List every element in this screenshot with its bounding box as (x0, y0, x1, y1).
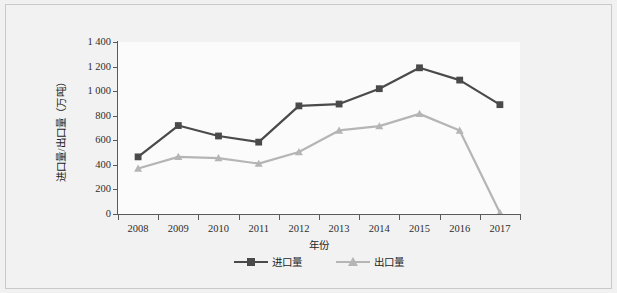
data-point-square (497, 101, 504, 108)
x-axis-tick (319, 215, 320, 220)
square-marker-icon (234, 256, 268, 267)
x-axis-title: 年份 (118, 237, 520, 252)
y-axis-tick-label: 400 (69, 160, 111, 170)
y-axis-tick (113, 42, 118, 43)
data-point-square (255, 139, 262, 146)
legend-item-export[interactable]: 出口量 (336, 254, 404, 269)
y-axis-tick-label: 800 (69, 111, 111, 121)
data-point-square (215, 133, 222, 140)
legend-label-import: 进口量 (272, 254, 302, 269)
x-axis-tick (359, 215, 360, 220)
series-line (138, 68, 500, 157)
x-axis-tick (520, 215, 521, 220)
x-axis-tick (239, 215, 240, 220)
legend-label-export: 出口量 (374, 254, 404, 269)
y-axis-tick (113, 165, 118, 166)
y-axis-tick-label: 1 400 (69, 37, 111, 47)
data-point-square (416, 64, 423, 71)
y-axis-tick-labels: 02004006008001 0001 2001 400 (66, 0, 111, 293)
legend-item-import[interactable]: 进口量 (234, 254, 302, 269)
data-point-square (456, 77, 463, 84)
x-axis-tick (480, 215, 481, 220)
data-point-triangle (496, 209, 504, 214)
data-point-square (296, 102, 303, 109)
series-出口量 (134, 110, 504, 214)
x-axis-tick (118, 215, 119, 220)
data-point-triangle (416, 110, 424, 117)
plot-area (118, 42, 520, 214)
y-axis-tick-label: 1 000 (69, 86, 111, 96)
data-point-square (135, 153, 142, 160)
chart-legend: 进口量 出口量 (118, 254, 520, 269)
x-axis-tick (440, 215, 441, 220)
y-axis-tick (113, 116, 118, 117)
y-axis-tick (113, 140, 118, 141)
x-axis-tick (158, 215, 159, 220)
y-axis-tick-label: 600 (69, 135, 111, 145)
x-axis-tick (198, 215, 199, 220)
x-axis-tick-label: 2017 (472, 223, 528, 235)
data-point-square (336, 101, 343, 108)
x-axis-tick-labels: 2008200920102011201220132014201520162017 (0, 223, 617, 237)
triangle-marker-icon (336, 256, 370, 267)
data-point-square (175, 122, 182, 129)
y-axis-tick (113, 67, 118, 68)
x-axis-tick (399, 215, 400, 220)
y-axis-tick (113, 189, 118, 190)
data-point-square (376, 85, 383, 92)
series-进口量 (135, 64, 504, 160)
y-axis-tick-label: 200 (69, 184, 111, 194)
chart-series-svg (118, 42, 520, 214)
y-axis-tick (113, 91, 118, 92)
y-axis-tick-label: 0 (69, 209, 111, 219)
x-axis-tick (279, 215, 280, 220)
chart-figure: 进口量/出口量（万吨） 02004006008001 0001 2001 400… (0, 0, 617, 293)
y-axis-tick-label: 1 200 (69, 62, 111, 72)
